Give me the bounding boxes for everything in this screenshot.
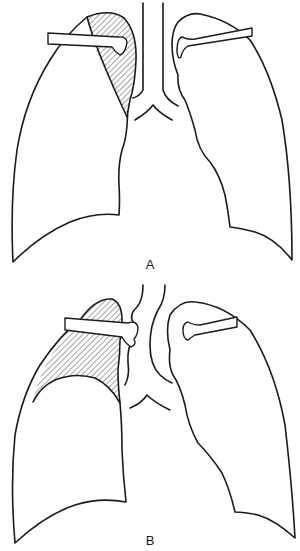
chest-diagram-b [0, 275, 300, 551]
hatched-opacity-a [87, 13, 136, 117]
left-clavicle-b [183, 317, 237, 340]
right-clavicle-a [48, 33, 127, 55]
panel-a: A [0, 0, 300, 275]
carina-b [130, 395, 170, 410]
left-lung-outline-a [172, 14, 292, 260]
panel-label-b: B [0, 533, 300, 548]
trachea-right-wall-a [163, 3, 178, 106]
carina-a [135, 105, 172, 120]
panel-b: B [0, 275, 300, 551]
left-clavicle-a [177, 28, 252, 58]
panel-label-a: A [0, 257, 300, 272]
chest-diagram-a [0, 0, 300, 275]
trachea-right-wall-b [150, 285, 172, 383]
